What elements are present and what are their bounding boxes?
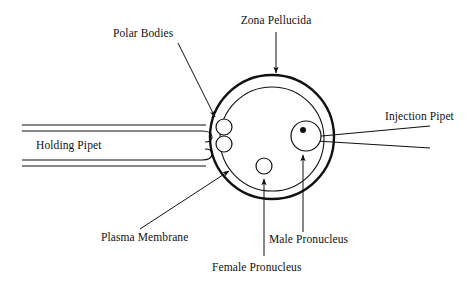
label-injection-pipet: Injection Pipet [385,111,454,123]
male-pronucleus-nucleolus-dot [300,127,306,133]
polar-bodies-leader-line [178,43,215,117]
male-pronucleus-circle[interactable] [291,121,321,151]
female-pronucleus-circle[interactable] [256,158,272,174]
label-male-pronucleus: Male Pronucleus [269,234,348,246]
label-holding-pipet: Holding Pipet [36,140,102,152]
polar-body-upper-circle[interactable] [216,119,232,135]
plasma-membrane-leader-line [140,171,229,229]
label-zona-pellucida: Zona Pellucida [241,15,312,27]
diagram-canvas: Zona Pellucida Polar Bodies Injection Pi… [0,0,471,283]
polar-body-lower-circle[interactable] [216,136,232,152]
label-plasma-membrane: Plasma Membrane [101,232,188,244]
label-female-pronucleus: Female Pronucleus [212,262,302,274]
label-polar-bodies: Polar Bodies [113,28,173,40]
